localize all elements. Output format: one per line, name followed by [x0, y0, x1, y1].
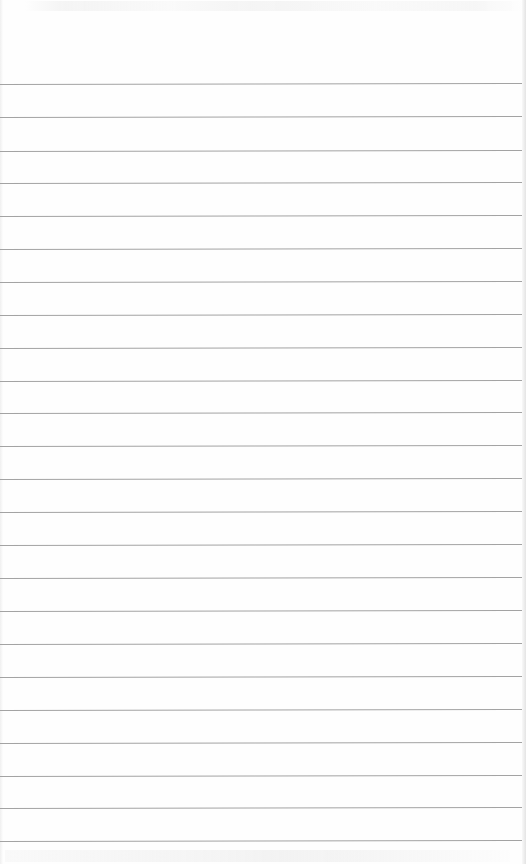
ruled-line: [0, 511, 522, 513]
ruled-line: [0, 610, 522, 612]
ruled-line: [0, 577, 522, 579]
ruled-line: [0, 248, 522, 250]
ruled-line: [0, 116, 522, 118]
ruled-line: [0, 643, 522, 645]
ruled-line: [0, 807, 522, 809]
notepad-page: [0, 0, 526, 864]
ruled-line: [0, 380, 522, 382]
bleed-through-top: [25, 1, 525, 11]
ruled-line: [0, 478, 522, 480]
ruled-line: [0, 840, 522, 842]
bleed-through-bottom: [5, 850, 510, 862]
ruled-line: [0, 709, 522, 711]
ruled-line: [0, 281, 522, 283]
ruled-line: [0, 347, 522, 349]
ruled-line: [0, 775, 522, 777]
ruled-line: [0, 742, 522, 744]
page-right-edge: [522, 0, 526, 864]
ruled-line: [0, 314, 522, 316]
ruled-line: [0, 445, 522, 447]
ruled-line: [0, 412, 522, 414]
ruled-line: [0, 150, 522, 152]
ruled-line: [0, 182, 522, 184]
ruled-line: [0, 215, 522, 217]
ruled-line: [0, 544, 522, 546]
ruled-line: [0, 676, 522, 678]
ruled-line: [0, 83, 522, 85]
page-left-edge: [0, 0, 3, 864]
